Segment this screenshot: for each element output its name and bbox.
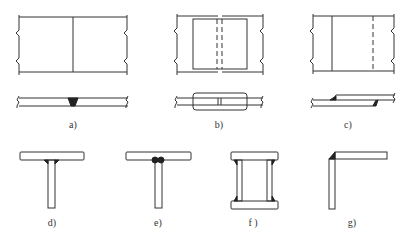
panel-d-t-joint (20, 152, 84, 208)
panel-b-section (175, 93, 263, 110)
weld-bead-icon (158, 157, 164, 163)
panel-a-section (17, 96, 128, 108)
weld-bead-icon (68, 98, 78, 106)
panel-b-plan (174, 14, 263, 75)
panel-f-label: f ) (248, 217, 257, 228)
panel-g-corner-joint (329, 152, 387, 209)
weld-fillet-icon (329, 152, 335, 159)
panel-c-section (311, 93, 395, 108)
panel-c-label: c) (344, 119, 352, 130)
panel-c-plan (310, 14, 394, 74)
weld-fillet-icon (55, 160, 59, 164)
panel-a-label: a) (69, 119, 77, 130)
weld-fillet-icon (373, 100, 378, 106)
weld-fillet-icon (330, 96, 336, 100)
panel-g-label: g) (348, 217, 356, 228)
panel-f-box-joint (231, 152, 278, 209)
panel-a-plan (16, 15, 127, 75)
panel-e-t-joint (126, 152, 191, 208)
panel-b-label: b) (215, 119, 223, 130)
panel-e-label: e) (154, 217, 162, 228)
weld-bead-icon (152, 157, 158, 163)
weld-fillet-icon (44, 160, 48, 164)
panel-d-label: d) (48, 217, 56, 228)
